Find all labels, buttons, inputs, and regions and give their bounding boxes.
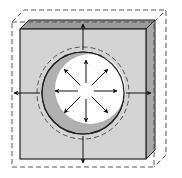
block-top-face (20, 20, 155, 29)
diagram-stage (0, 0, 182, 178)
cavity-opening (55, 54, 125, 124)
expansion-diagram (0, 0, 182, 178)
circular-cavity (37, 47, 129, 139)
dashed-depth-edge (154, 10, 166, 22)
